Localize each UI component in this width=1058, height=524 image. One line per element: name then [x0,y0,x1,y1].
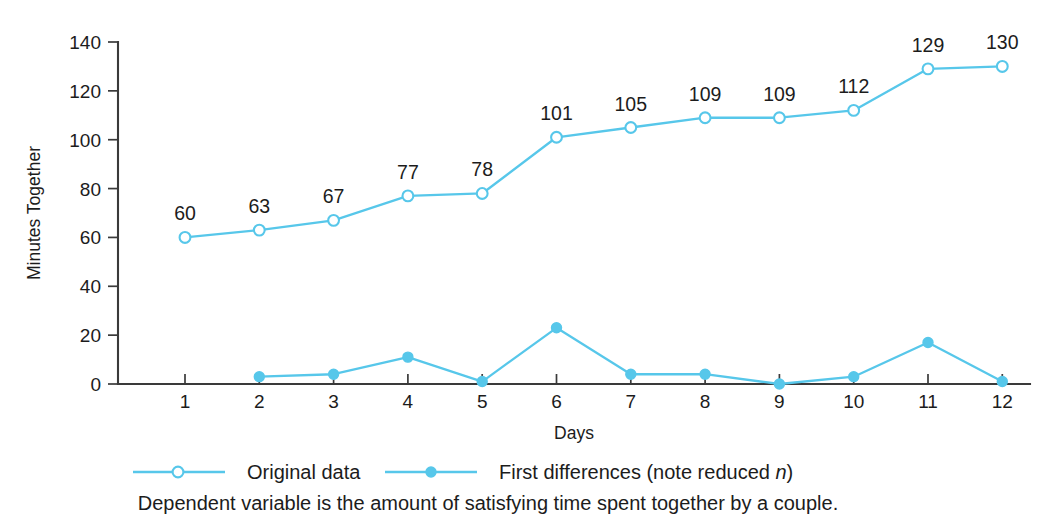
y-tick-label-40: 40 [80,276,101,297]
x-tick-label-8: 8 [700,391,711,412]
data-point-s1-x2[interactable] [254,372,264,382]
y-tick-label-140: 140 [69,32,101,53]
legend-marker-open-circle [173,467,184,478]
data-point-s1-x12[interactable] [997,377,1007,387]
x-tick-label-12: 12 [992,391,1013,412]
data-point-s0-x5[interactable] [477,188,488,199]
data-point-s0-x6[interactable] [551,132,562,143]
legend-label-prefix: First differences (note reduced [499,461,775,483]
data-point-s1-x11[interactable] [923,337,933,347]
legend-entry-original-data[interactable]: Original data [133,461,361,483]
data-point-s1-x8[interactable] [700,369,710,379]
data-point-s0-x1[interactable] [180,232,191,243]
chart-figure: 020406080100120140 123456789101112 Minut… [0,0,1058,524]
y-tick-label-100: 100 [69,130,101,151]
data-point-s0-x4[interactable] [403,191,414,202]
chart-caption: Dependent variable is the amount of sati… [138,492,838,514]
x-tick-label-4: 4 [403,391,414,412]
y-tick-label-80: 80 [80,179,101,200]
y-tick-label-20: 20 [80,325,101,346]
data-label-x11: 129 [912,34,945,56]
legend: Original data First differences (note re… [133,461,793,483]
y-tick-group [108,42,118,384]
data-label-x6: 101 [540,102,573,124]
x-tick-label-group: 123456789101112 [180,391,1013,412]
y-tick-label-60: 60 [80,227,101,248]
data-label-x9: 109 [763,83,796,105]
series-group [180,61,1008,389]
data-point-s0-x3[interactable] [328,215,339,226]
data-label-x5: 78 [471,158,493,180]
series-line-0 [185,66,1002,237]
data-point-s0-x9[interactable] [774,112,785,123]
x-tick-label-3: 3 [328,391,339,412]
data-point-s1-x10[interactable] [849,372,859,382]
data-label-x2: 63 [248,195,270,217]
data-point-s1-x5[interactable] [477,377,487,387]
data-point-s0-x11[interactable] [923,63,934,74]
data-label-x7: 105 [615,93,648,115]
y-tick-label-120: 120 [69,81,101,102]
legend-label-first-differences: First differences (note reduced n) [499,461,793,483]
data-label-x10: 112 [838,75,869,97]
data-point-s1-x3[interactable] [329,369,339,379]
legend-label-italic-n: n [775,461,786,483]
legend-label-suffix: ) [787,461,794,483]
legend-marker-filled-circle [426,467,436,477]
data-point-s0-x2[interactable] [254,225,265,236]
data-point-s1-x6[interactable] [552,323,562,333]
data-point-s0-x10[interactable] [848,105,859,116]
x-tick-label-1: 1 [180,391,191,412]
x-tick-label-5: 5 [477,391,488,412]
chart-plot-area: 020406080100120140 123456789101112 Minut… [0,0,1058,524]
data-label-group: 6063677778101105109109112129130 [174,31,1019,224]
data-point-s0-x7[interactable] [625,122,636,133]
x-tick-label-9: 9 [774,391,785,412]
y-axis-title: Minutes Together [24,146,44,280]
y-tick-label-group: 020406080100120140 [69,32,101,395]
x-axis-title: Days [554,423,594,443]
data-label-x3: 67 [323,185,345,207]
legend-label-original-data: Original data [247,461,361,483]
data-label-x12: 130 [986,31,1019,53]
x-tick-label-10: 10 [843,391,864,412]
data-point-s0-x8[interactable] [700,112,711,123]
data-point-s0-x12[interactable] [997,61,1008,72]
data-point-s1-x7[interactable] [626,369,636,379]
x-tick-label-6: 6 [551,391,562,412]
data-point-s1-x4[interactable] [403,352,413,362]
data-label-x4: 77 [397,161,419,183]
data-label-x1: 60 [174,202,196,224]
data-point-s1-x9[interactable] [774,379,784,389]
data-label-x8: 109 [689,83,722,105]
x-tick-label-7: 7 [626,391,637,412]
legend-entry-first-differences[interactable]: First differences (note reduced n) [385,461,793,483]
y-tick-label-0: 0 [90,374,101,395]
x-tick-label-11: 11 [918,391,938,412]
x-tick-label-2: 2 [254,391,265,412]
